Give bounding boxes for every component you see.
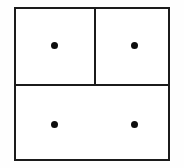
dot-bottom-left-icon [51,121,58,128]
dot-top-left-icon [51,42,58,49]
dot-top-right-icon [131,42,138,49]
dot-bottom-right-icon [131,121,138,128]
diagram-canvas [0,0,184,168]
bottom-cell [16,86,168,159]
